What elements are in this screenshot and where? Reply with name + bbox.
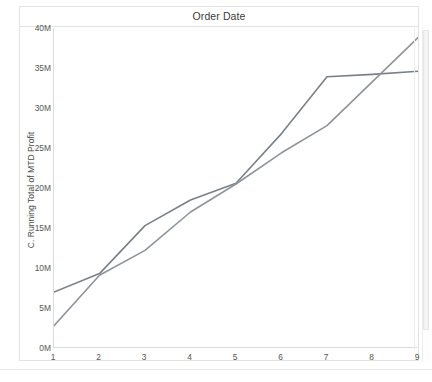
y-tick-label: 10M: [35, 263, 51, 273]
chart-title-band: Order Date: [20, 7, 418, 27]
y-tick-label: 40M: [35, 23, 51, 33]
x-tick-label: 4: [187, 352, 192, 362]
bottom-divider: [0, 369, 432, 370]
chart-container: Order Date C. Running Total of MTD Profi…: [0, 0, 432, 382]
y-axis-tick-labels: 0M5M10M15M20M25M30M35M40M: [22, 28, 53, 352]
vertical-scrollbar-thumb[interactable]: [423, 30, 429, 330]
y-tick-label: 30M: [35, 103, 51, 113]
x-tick-label: 9: [415, 352, 420, 362]
x-tick-label: 6: [278, 352, 283, 362]
y-tick-label: 15M: [35, 223, 51, 233]
series-line[interactable]: [54, 71, 418, 292]
plot-area: [53, 28, 417, 348]
y-tick-label: 35M: [35, 63, 51, 73]
y-tick-label: 0M: [39, 343, 51, 353]
y-tick-label: 25M: [35, 143, 51, 153]
x-tick-label: 5: [233, 352, 238, 362]
x-axis-tick-labels: 123456789: [53, 350, 417, 368]
y-tick-label: 20M: [35, 183, 51, 193]
x-tick-label: 1: [51, 352, 56, 362]
chart-title: Order Date: [193, 11, 246, 22]
x-tick-label: 3: [142, 352, 147, 362]
series-line[interactable]: [54, 38, 418, 326]
x-tick-label: 2: [96, 352, 101, 362]
x-tick-label: 7: [324, 352, 329, 362]
y-tick-label: 5M: [39, 303, 51, 313]
series-group: [54, 38, 418, 326]
plot-right-edge: [414, 28, 415, 350]
plot-lines: [54, 28, 418, 348]
x-tick-label: 8: [369, 352, 374, 362]
